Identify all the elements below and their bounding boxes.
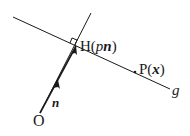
label-h: H(pn) <box>80 39 117 54</box>
label-origin: O <box>33 113 45 129</box>
label-g: g <box>172 83 180 98</box>
diagram-canvas: H(pn) P(x) g n O <box>0 0 190 136</box>
label-p: P(x) <box>139 62 165 77</box>
label-vector-n: n <box>52 96 59 109</box>
point-p-dot <box>134 71 137 74</box>
